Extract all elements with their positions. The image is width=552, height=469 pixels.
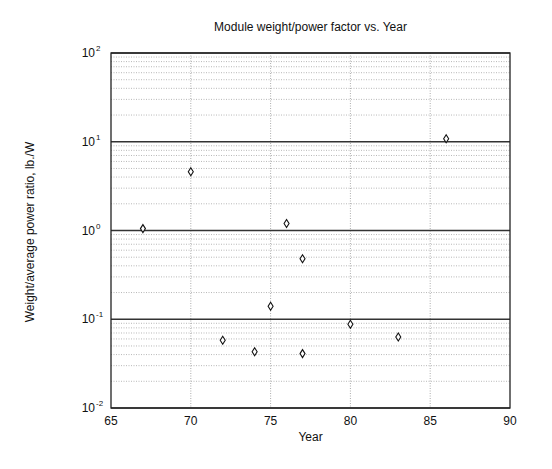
data-point-diamond (300, 255, 305, 263)
y-tick-exponent: 1 (96, 133, 101, 142)
y-tick-exponent: 2 (96, 44, 101, 53)
y-tick-label: 10 (82, 135, 96, 149)
data-point-diamond (348, 320, 353, 328)
x-tick-label: 80 (344, 414, 358, 428)
data-point-diamond (140, 225, 145, 233)
y-tick-exponent: 0 (96, 222, 101, 231)
plot-area: 65707580859010-210-1100101102 (0, 0, 552, 469)
data-point-diamond (396, 333, 401, 341)
data-point-diamond (284, 219, 289, 227)
data-point-diamond (268, 302, 273, 310)
x-tick-label: 75 (264, 414, 278, 428)
x-tick-label: 65 (104, 414, 118, 428)
y-tick-exponent: -1 (96, 310, 104, 319)
x-tick-label: 90 (503, 414, 517, 428)
data-point-diamond (300, 350, 305, 358)
y-tick-exponent: -2 (96, 399, 104, 408)
y-tick-label: 10 (82, 46, 96, 60)
data-point-diamond (220, 336, 225, 344)
y-tick-label: 10 (82, 401, 96, 415)
x-tick-label: 85 (424, 414, 438, 428)
y-tick-label: 10 (82, 224, 96, 238)
data-point-diamond (188, 168, 193, 176)
y-tick-label: 10 (82, 312, 96, 326)
x-tick-label: 70 (184, 414, 198, 428)
